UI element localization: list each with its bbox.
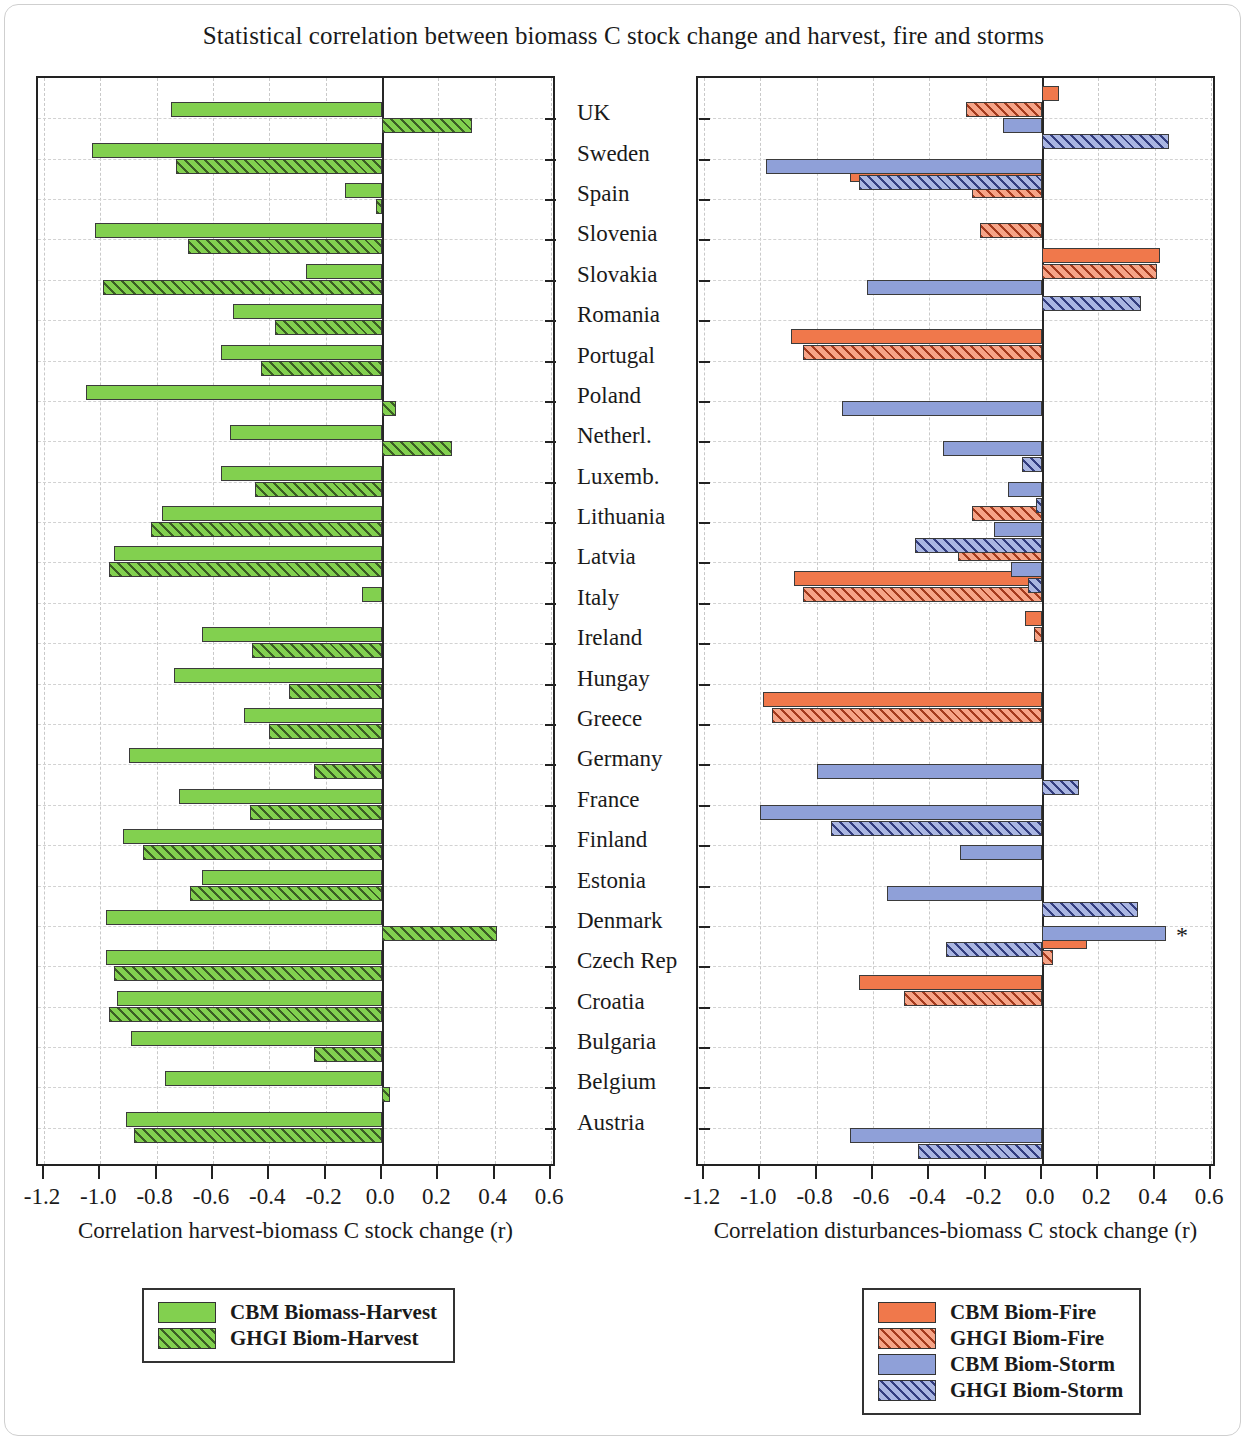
legend-label: CBM Biom-Storm	[950, 1352, 1115, 1377]
bar	[966, 102, 1042, 117]
category-tick	[699, 159, 710, 161]
gridline-horizontal	[38, 199, 553, 200]
chart-panel-disturbances	[696, 76, 1215, 1166]
x-axis-tick	[155, 1166, 157, 1179]
category-tick	[545, 886, 556, 888]
bar	[1042, 248, 1160, 263]
bar	[382, 401, 396, 416]
x-axis-tick	[324, 1166, 326, 1179]
gridline-vertical	[1098, 78, 1100, 1164]
bar	[859, 175, 1042, 190]
bar	[131, 1031, 382, 1046]
bar	[314, 764, 382, 779]
legend-swatch	[878, 1354, 936, 1375]
category-tick	[545, 805, 556, 807]
bar	[126, 1112, 382, 1127]
legend-item: CBM Biomass-Harvest	[158, 1299, 437, 1325]
gridline-horizontal	[698, 845, 1213, 846]
bar	[179, 789, 382, 804]
category-tick	[699, 805, 710, 807]
x-axis-tick	[493, 1166, 495, 1179]
bar	[1003, 118, 1042, 133]
gridline-horizontal	[698, 1007, 1213, 1008]
bar	[1028, 578, 1042, 593]
x-axis-tick-label: 0.6	[514, 1184, 584, 1210]
bar	[972, 506, 1042, 521]
gridline-horizontal	[698, 643, 1213, 644]
country-label: Hungay	[577, 667, 650, 690]
x-axis-title: Correlation harvest-biomass C stock chan…	[36, 1218, 555, 1244]
x-axis-tick	[380, 1166, 382, 1179]
x-axis-tick	[436, 1166, 438, 1179]
country-label: Bulgaria	[577, 1030, 656, 1053]
country-label: Lithuania	[577, 505, 665, 528]
bar	[867, 280, 1042, 295]
bar	[766, 159, 1042, 174]
gridline-horizontal	[38, 118, 553, 119]
x-axis-tick	[42, 1166, 44, 1179]
category-tick	[545, 159, 556, 161]
bar	[1011, 562, 1042, 577]
bar	[171, 102, 382, 117]
bar	[1042, 926, 1166, 941]
x-axis-tick	[702, 1166, 704, 1179]
bar	[202, 627, 382, 642]
bar	[887, 886, 1042, 901]
category-tick	[699, 643, 710, 645]
legend-swatch	[878, 1328, 936, 1349]
bar	[1034, 627, 1042, 642]
bar	[382, 441, 452, 456]
category-tick	[545, 966, 556, 968]
x-axis-tick	[815, 1166, 817, 1179]
country-label: UK	[577, 101, 610, 124]
x-axis-tick	[871, 1166, 873, 1179]
bar	[803, 345, 1042, 360]
gridline-vertical	[817, 78, 819, 1164]
bar	[850, 1128, 1042, 1143]
bar	[1022, 457, 1042, 472]
category-tick	[545, 401, 556, 403]
category-tick	[699, 1128, 710, 1130]
category-tick	[699, 199, 710, 201]
category-tick	[699, 118, 710, 120]
bar	[994, 522, 1042, 537]
bar	[382, 118, 472, 133]
bar	[109, 562, 382, 577]
category-tick	[545, 482, 556, 484]
category-tick	[699, 603, 710, 605]
country-label: Belgium	[577, 1070, 656, 1093]
category-tick	[545, 926, 556, 928]
country-label: Portugal	[577, 344, 655, 367]
category-tick	[699, 280, 710, 282]
gridline-horizontal	[698, 239, 1213, 240]
bar	[255, 482, 382, 497]
bar	[269, 724, 382, 739]
bar	[252, 643, 382, 658]
bar	[772, 708, 1042, 723]
bar	[1042, 86, 1059, 101]
gridline-vertical	[100, 78, 102, 1164]
bar	[188, 239, 382, 254]
bar	[106, 950, 382, 965]
bar	[275, 320, 382, 335]
x-axis-tick	[758, 1166, 760, 1179]
bar	[162, 506, 382, 521]
category-tick	[545, 239, 556, 241]
category-tick	[699, 401, 710, 403]
category-tick	[699, 1047, 710, 1049]
bar	[1042, 264, 1157, 279]
gridline-horizontal	[698, 1047, 1213, 1048]
category-tick	[545, 845, 556, 847]
legend-item: GHGI Biom-Harvest	[158, 1325, 437, 1351]
bar	[134, 1128, 382, 1143]
category-tick	[699, 724, 710, 726]
bar	[114, 546, 382, 561]
bar	[117, 991, 382, 1006]
gridline-horizontal	[38, 764, 553, 765]
gridline-horizontal	[38, 1047, 553, 1048]
bar	[1025, 611, 1042, 626]
gridline-horizontal	[698, 361, 1213, 362]
bar	[123, 829, 382, 844]
gridline-horizontal	[698, 724, 1213, 725]
bar	[1008, 482, 1042, 497]
